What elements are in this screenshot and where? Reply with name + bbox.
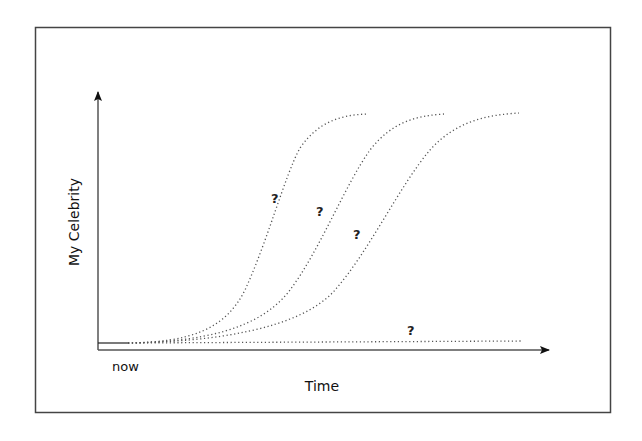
curve-3 bbox=[128, 113, 519, 343]
question-mark-2: ? bbox=[316, 204, 324, 219]
now-label: now bbox=[112, 359, 139, 374]
question-mark-3: ? bbox=[353, 227, 361, 242]
question-mark-4: ? bbox=[407, 323, 415, 338]
curve-2 bbox=[128, 114, 444, 343]
y-axis-label: My Celebrity bbox=[66, 178, 82, 266]
frame-border bbox=[36, 28, 611, 413]
curve-1 bbox=[128, 114, 367, 343]
question-mark-1: ? bbox=[271, 191, 279, 206]
x-axis-label: Time bbox=[304, 378, 339, 394]
curve-flat bbox=[128, 341, 522, 343]
celebrity-chart: ? ? ? ? My Celebrity Time now bbox=[0, 0, 642, 441]
